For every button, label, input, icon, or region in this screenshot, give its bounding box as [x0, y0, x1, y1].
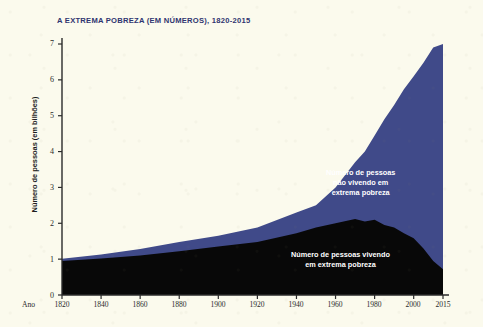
annotation-non-poverty-line-2: não vivendo em: [326, 178, 395, 188]
poverty-area-chart: A EXTREMA POBREZA (EM NÚMEROS), 1820-201…: [0, 0, 483, 327]
annotation-poverty-line-2: em extrema pobreza: [291, 260, 390, 270]
annotation-non-poverty-line-1: Número de pessoas: [326, 168, 395, 178]
annotation-non-poverty-line-3: extrema pobreza: [326, 188, 395, 198]
annotation-poverty-line-1: Número de pessoas vivendo: [291, 250, 390, 260]
annotation-poverty: Número de pessoas vivendo em extrema pob…: [291, 250, 390, 270]
plot-area: [0, 0, 483, 327]
annotation-non-poverty: Número de pessoas não vivendo em extrema…: [326, 168, 395, 198]
